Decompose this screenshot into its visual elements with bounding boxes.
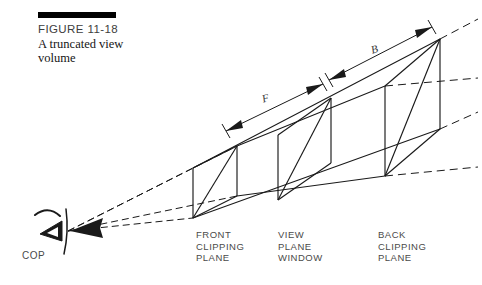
back-bottom-edge — [385, 129, 440, 176]
extension-edge-mid — [440, 112, 478, 129]
label-back-clipping-plane: BACK CLIPPING PLANE — [378, 229, 426, 264]
dim-B-arrow-end — [415, 27, 432, 38]
label-view-plane-window: VIEW PLANE WINDOW — [278, 229, 323, 264]
dimension-line-F — [222, 77, 327, 138]
label-cop: COP — [22, 250, 45, 261]
edge-top-near-far — [193, 39, 440, 168]
label-front-clipping-plane: FRONT CLIPPING PLANE — [196, 229, 244, 264]
eyebrow-arc-icon — [35, 210, 60, 216]
view-bottom-edge — [278, 163, 331, 200]
caption-rule — [38, 12, 116, 18]
dim-F-arrow-end — [306, 84, 323, 95]
extension-edge-bottom — [385, 167, 478, 176]
figure-caption: FIGURE 11-18 A truncated view volume — [38, 12, 188, 65]
extension-edge-top-left — [440, 19, 478, 39]
dim-B-arrow-start — [329, 69, 346, 80]
plane-front-clipping — [193, 146, 237, 218]
figure-title: A truncated view volume — [38, 37, 158, 65]
extension-edge-top-right — [385, 78, 478, 86]
cop-eye-symbol — [35, 209, 103, 254]
frustum-extension-dashed — [385, 19, 478, 176]
figure-root: FIGURE 11-18 A truncated view volume FRO… — [0, 0, 482, 285]
dim-F-arrow-start — [226, 120, 243, 131]
edge-bottom-back — [237, 176, 385, 196]
dimension-line-B — [325, 20, 436, 87]
view-direction-arrow-icon — [70, 218, 103, 238]
back-top-edge — [385, 39, 440, 86]
back-diagonal — [385, 39, 440, 176]
plane-back-clipping — [385, 39, 440, 176]
face-profile-line-icon — [64, 209, 67, 254]
figure-number: FIGURE 11-18 — [38, 23, 188, 36]
view-top-edge — [278, 98, 331, 135]
